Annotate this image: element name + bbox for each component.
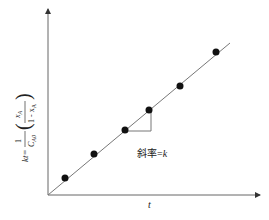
x-axis-label: t bbox=[148, 199, 151, 210]
y-label-inner-den: 1 - xA bbox=[27, 103, 37, 123]
data-point bbox=[62, 175, 69, 182]
slope-annotation-var: k bbox=[163, 148, 168, 159]
y-axis-label: kt= 1 CA0 ( ) xA 1 - xA bbox=[12, 93, 37, 162]
y-label-inner-num: xA bbox=[13, 110, 23, 119]
y-label-den: CA0 bbox=[27, 135, 37, 147]
y-label-paren-right: ) bbox=[12, 93, 35, 100]
data-point bbox=[146, 107, 153, 114]
fit-line bbox=[48, 43, 230, 195]
slope-annotation: 斜率=k bbox=[137, 147, 168, 159]
y-label-paren-left: ( bbox=[12, 123, 35, 130]
chart: t 斜率=k kt= 1 CA0 ( ) xA 1 - xA bbox=[0, 0, 269, 220]
y-label-num: 1 bbox=[14, 139, 23, 143]
data-point bbox=[122, 127, 129, 134]
data-point bbox=[177, 83, 184, 90]
data-point bbox=[91, 151, 98, 158]
slope-annotation-text: 斜率= bbox=[137, 147, 163, 159]
y-label-lhs: kt= bbox=[20, 149, 30, 162]
data-point bbox=[213, 49, 220, 56]
data-points bbox=[62, 49, 220, 182]
